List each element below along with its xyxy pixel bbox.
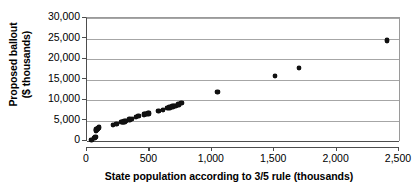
data-point	[273, 74, 277, 78]
plot-inner	[87, 18, 399, 141]
gridline-y	[87, 121, 399, 122]
y-tick-label: 20,000	[20, 52, 80, 63]
x-axis-title: State population according to 3/5 rule (…	[0, 170, 418, 182]
x-tick-label: 1,500	[243, 152, 303, 164]
gridline-y	[87, 59, 399, 60]
x-tick-label: 500	[118, 152, 178, 164]
plot-area	[86, 17, 400, 141]
scatter-chart: Proposed ballout ($ thousands) State pop…	[0, 0, 418, 191]
x-tick-label: 1,000	[181, 152, 241, 164]
y-tick-label: 5,000	[20, 114, 80, 125]
y-tick-label: 10,000	[20, 93, 80, 104]
y-axis-title-line-1: Proposed ballout	[7, 2, 20, 128]
x-axis-line	[86, 147, 399, 148]
x-tick-label: 0	[56, 152, 116, 164]
data-point	[179, 101, 183, 105]
gridline-y	[87, 80, 399, 81]
data-point	[147, 111, 151, 115]
y-tick-mark	[82, 37, 86, 38]
data-point	[385, 38, 389, 42]
y-tick-mark	[82, 119, 86, 120]
y-tick-label: 30,000	[20, 11, 80, 22]
x-tick-mark	[273, 147, 274, 151]
data-point	[93, 135, 97, 139]
y-tick-mark	[82, 99, 86, 100]
data-point	[97, 125, 101, 129]
x-tick-mark	[211, 147, 212, 151]
y-tick-label: 15,000	[20, 73, 80, 84]
data-point	[297, 66, 301, 70]
x-tick-mark	[336, 147, 337, 151]
data-point	[136, 114, 140, 118]
y-tick-mark	[82, 140, 86, 141]
x-tick-mark	[398, 147, 399, 151]
gridline-y	[87, 141, 399, 142]
x-tick-label: 2,000	[306, 152, 366, 164]
y-tick-mark	[82, 58, 86, 59]
y-tick-mark	[82, 17, 86, 18]
gridline-y	[87, 100, 399, 101]
x-tick-mark	[86, 147, 87, 151]
data-point	[215, 90, 219, 94]
data-point	[114, 122, 118, 126]
x-tick-label: 2,500	[368, 152, 418, 164]
y-tick-label: 0	[20, 134, 80, 145]
gridline-y	[87, 39, 399, 40]
gridline-y	[87, 18, 399, 19]
y-tick-label: 25,000	[20, 32, 80, 43]
x-tick-mark	[148, 147, 149, 151]
y-tick-mark	[82, 78, 86, 79]
